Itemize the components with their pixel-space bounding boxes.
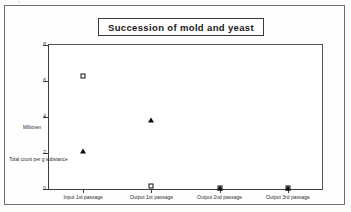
x-axis-label-1: Output 1st passage	[130, 194, 173, 200]
data-point-yeast-1	[149, 184, 154, 189]
x-axis-label-2: Output 2nd passage	[197, 194, 242, 200]
y-axis-unit-label: Millionen	[23, 125, 41, 130]
x-axis-label-0: Input 1st passage	[63, 194, 102, 200]
y-tick-label: 0	[43, 185, 46, 191]
x-tick-mark	[83, 189, 84, 193]
plot-frame: 02468	[48, 44, 323, 190]
x-tick-mark	[151, 189, 152, 193]
y-axis-label: Total count per g substance	[9, 157, 68, 162]
data-point-mold-3	[285, 186, 291, 191]
y-tick-label: 2	[43, 149, 46, 155]
x-axis-label-3: Output 3rd passage	[266, 194, 310, 200]
figure-page: Succession of mold and yeast Yeast Mold …	[0, 0, 351, 212]
figure-border: Succession of mold and yeast Yeast Mold …	[4, 5, 345, 205]
plot-area: 02468	[49, 45, 322, 189]
data-point-mold-1	[148, 117, 154, 122]
data-point-yeast-0	[81, 73, 86, 78]
y-tick-label: 6	[43, 77, 46, 83]
y-tick-label: 8	[43, 41, 46, 47]
scan-artifact	[18, 1, 20, 3]
data-point-mold-0	[80, 149, 86, 154]
y-tick-label: 4	[43, 113, 46, 119]
data-point-mold-2	[217, 186, 223, 191]
chart-title: Succession of mold and yeast	[108, 22, 254, 33]
chart-title-box: Succession of mold and yeast	[98, 18, 264, 36]
